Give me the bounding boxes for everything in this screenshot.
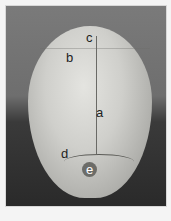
coronal-suture: [40, 48, 150, 49]
label-c: c: [86, 31, 93, 44]
skull-photo: c b a d e: [6, 6, 166, 206]
figure-caption: [0, 207, 171, 221]
label-d: d: [61, 147, 68, 160]
label-e: e: [82, 162, 97, 177]
label-a: a: [96, 106, 103, 119]
lambdoid-suture: [64, 154, 134, 169]
sagittal-suture: [96, 36, 97, 154]
label-b: b: [66, 51, 73, 64]
